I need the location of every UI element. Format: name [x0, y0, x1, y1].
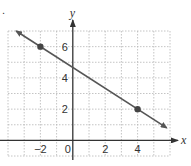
y-tick-label: 2 — [62, 103, 68, 115]
item-bullet: . — [2, 4, 5, 16]
y-tick-label: 6 — [62, 41, 68, 53]
x-tick-label: 0 — [65, 143, 71, 155]
y-axis-label: y — [69, 6, 76, 20]
data-point — [134, 106, 140, 112]
x-tick-label: 4 — [135, 143, 141, 155]
x-tick-label: −2 — [34, 143, 47, 155]
data-point — [37, 43, 43, 49]
x-tick-label: 2 — [102, 143, 108, 155]
y-tick-label: 4 — [62, 72, 68, 84]
grid — [8, 31, 170, 156]
x-axis-label: x — [180, 133, 187, 147]
chart: . x y −2024246 — [0, 0, 191, 166]
tick-labels: −2024246 — [34, 41, 141, 156]
